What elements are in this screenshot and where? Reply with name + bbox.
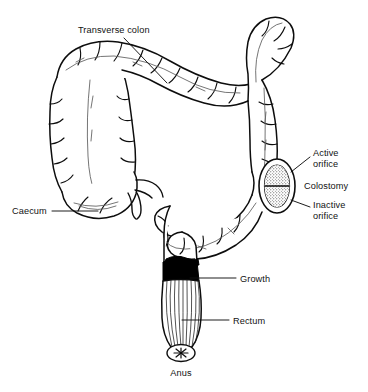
label-inactive-orifice-line1: Inactive: [313, 200, 345, 210]
rectum: [162, 280, 202, 348]
label-growth: Growth: [240, 274, 270, 284]
label-active-orifice-line2: orifice: [313, 159, 338, 169]
anatomy-illustration: Transverse colon Caecum Active orifice C…: [0, 0, 368, 392]
colostomy-stoma: [252, 159, 295, 213]
splenic-flexure: [247, 17, 294, 101]
label-inactive-orifice-line2: orifice: [313, 211, 338, 221]
label-anus: Anus: [170, 368, 192, 378]
label-rectum: Rectum: [233, 316, 265, 326]
colon-colostomy-figure: Transverse colon Caecum Active orifice C…: [0, 0, 368, 392]
label-transverse-colon: Transverse colon: [78, 25, 150, 35]
sigmoid-colon: [155, 195, 262, 262]
anus: [167, 345, 195, 362]
leader-inactive-orifice: [291, 200, 310, 207]
label-colostomy: Colostomy: [304, 181, 349, 191]
leader-active-orifice: [291, 157, 310, 172]
label-active-orifice-line1: Active: [313, 148, 339, 158]
label-caecum: Caecum: [12, 206, 47, 216]
